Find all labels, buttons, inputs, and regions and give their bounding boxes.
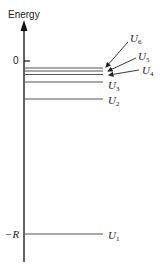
- leader-u4: [109, 70, 139, 75]
- label-u4: U4: [142, 65, 153, 80]
- label-u2: U2: [108, 95, 119, 110]
- tick-label-minus-r: −R: [5, 229, 19, 240]
- label-u6: U6: [130, 33, 141, 48]
- label-u3: U3: [108, 80, 119, 95]
- axis-arrow-icon: [21, 20, 28, 31]
- tick-label-zero: 0: [13, 56, 19, 66]
- y-axis-label: Energy: [8, 10, 40, 20]
- label-u1: U1: [108, 230, 119, 245]
